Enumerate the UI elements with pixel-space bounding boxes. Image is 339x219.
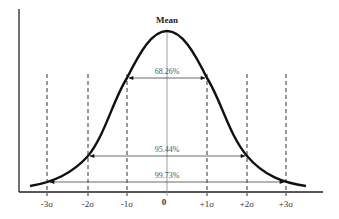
tick-zero: 0 [162, 197, 167, 207]
pct-95-label: 95.44% [155, 145, 180, 154]
tick-minus3: -3σ [41, 199, 53, 209]
tick-plus3: +3σ [279, 199, 294, 209]
mean-label: Mean [156, 15, 178, 25]
tick-plus1: +1σ [200, 199, 215, 209]
x-tick-labels: -3σ -2σ -1σ 0 +1σ +2σ +3σ [41, 197, 294, 209]
pct-68-label: 68.26% [155, 67, 180, 76]
normal-distribution-diagram: Mean 68.26% 95.44% 99.73% -3σ -2σ -1σ 0 … [0, 0, 339, 219]
tick-minus1: -1σ [121, 199, 133, 209]
bell-curve [30, 31, 306, 186]
tick-plus2: +2σ [240, 199, 255, 209]
pct-99-label: 99.73% [155, 171, 180, 180]
tick-minus2: -2σ [82, 199, 94, 209]
